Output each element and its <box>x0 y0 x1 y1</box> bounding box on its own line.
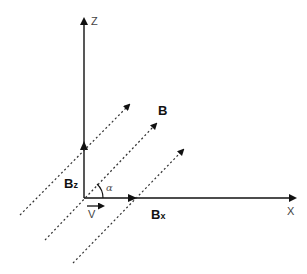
angle-alpha-label: α <box>106 182 113 193</box>
bz-label: Bz <box>64 176 78 191</box>
bx-label-sub: x <box>160 211 165 221</box>
field-line-2 <box>45 124 156 240</box>
bx-label-main: B <box>151 207 160 222</box>
z-axis-label: Z <box>91 15 98 27</box>
bz-label-sub: z <box>73 180 78 190</box>
velocity-label: V <box>88 208 96 220</box>
bx-label: Bx <box>151 207 165 222</box>
b-field-label: B <box>158 103 167 118</box>
x-axis-label: X <box>287 205 295 217</box>
field-diagram: Z X B Bz Bx V α <box>0 0 307 274</box>
angle-arc <box>97 184 103 198</box>
bz-arrowhead-icon <box>80 141 88 150</box>
bz-label-main: B <box>64 176 73 191</box>
